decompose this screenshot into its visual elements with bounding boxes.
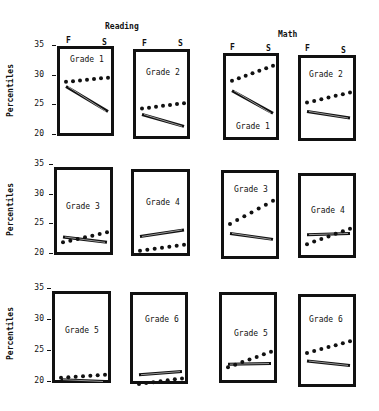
y-tick-mark xyxy=(52,75,56,76)
y-tick-label-30: 30 xyxy=(26,70,44,79)
dotted-series-point xyxy=(341,341,345,345)
dotted-series-point xyxy=(251,71,255,75)
dotted-series-point xyxy=(64,80,68,84)
y-tick-label-25: 25 xyxy=(26,345,44,354)
dotted-series-point xyxy=(312,99,316,103)
dotted-series-point xyxy=(98,232,102,236)
dotted-series-point xyxy=(103,373,107,377)
panel-reading-grade-4: Grade 4 xyxy=(131,169,190,256)
dotted-series-point xyxy=(161,104,165,108)
y-tick-label-35: 35 xyxy=(26,283,44,292)
grade-label: Grade 1 xyxy=(236,122,270,131)
dotted-series-point xyxy=(242,214,246,218)
dotted-series-point xyxy=(319,347,323,351)
panel-reading-grade-3: Grade 3 xyxy=(54,167,113,255)
y-tick-mark xyxy=(47,288,51,289)
grade-label: Grade 5 xyxy=(65,326,99,335)
panel-plot xyxy=(301,176,359,261)
reading-g2-s-label: S xyxy=(178,39,183,48)
dotted-series-point xyxy=(264,66,268,70)
dotted-series-point xyxy=(271,199,275,203)
dotted-series-point xyxy=(144,381,148,385)
dotted-series-point xyxy=(305,351,309,355)
dotted-series-point xyxy=(59,376,63,380)
dotted-series-point xyxy=(90,234,94,238)
dotted-series-point xyxy=(327,234,331,238)
dotted-series-point xyxy=(71,79,75,83)
dotted-series-point xyxy=(166,378,170,382)
panel-plot xyxy=(301,297,359,390)
math-g1-s-label: S xyxy=(266,44,271,53)
dotted-series-point xyxy=(228,222,232,226)
y-tick-mark xyxy=(52,45,56,46)
dotted-series-point xyxy=(348,227,352,231)
panel-reading-grade-1: Grade 1 xyxy=(57,46,114,136)
dotted-series-point xyxy=(180,376,184,380)
dotted-series-point xyxy=(160,246,164,250)
panel-plot xyxy=(55,294,114,386)
dotted-series-point xyxy=(341,229,345,233)
dotted-series-point xyxy=(168,103,172,107)
dotted-series-point xyxy=(137,382,141,386)
y-tick-label-35: 35 xyxy=(26,159,44,168)
y-tick-label-25: 25 xyxy=(26,99,44,108)
dotted-series-point xyxy=(85,78,89,82)
y-tick-label-35: 35 xyxy=(26,40,44,49)
panel-math-grade-5: Grade 5 xyxy=(219,292,277,383)
dotted-series-point xyxy=(348,91,352,95)
dotted-series-point xyxy=(182,243,186,247)
y-tick-label-25: 25 xyxy=(26,218,44,227)
dotted-series-point xyxy=(348,339,352,343)
panel-math-grade-3: Grade 3 xyxy=(221,170,279,259)
dotted-series-point xyxy=(66,375,70,379)
math-g1-f-label: F xyxy=(230,43,235,52)
panel-plot xyxy=(136,52,193,142)
dotted-series-point xyxy=(167,245,171,249)
panel-reading-grade-6: Grade 6 xyxy=(130,292,188,384)
dotted-series-point xyxy=(175,244,179,248)
math-g2-f-label: F xyxy=(305,44,310,53)
panel-plot xyxy=(222,295,280,386)
dotted-series-point xyxy=(250,210,254,214)
dotted-series-point xyxy=(153,247,157,251)
y-tick-label-20: 20 xyxy=(26,248,44,257)
math-section-title: Math xyxy=(278,30,297,39)
panel-plot xyxy=(57,170,116,258)
grade-label: Grade 5 xyxy=(234,329,268,338)
y-tick-label-20: 20 xyxy=(26,376,44,385)
y-tick-mark xyxy=(47,319,51,320)
dotted-series-point xyxy=(83,235,87,239)
dotted-series-point xyxy=(61,240,65,244)
dotted-series-point xyxy=(334,232,338,236)
dotted-series-point xyxy=(105,230,109,234)
dotted-series-point xyxy=(159,379,163,383)
panel-math-grade-1: Grade 1 xyxy=(223,53,279,140)
grade-label: Grade 1 xyxy=(70,55,104,64)
dotted-series-point xyxy=(96,373,100,377)
grade-label: Grade 6 xyxy=(309,315,343,324)
dotted-series-point xyxy=(341,92,345,96)
dotted-series-point xyxy=(312,240,316,244)
dotted-series-point xyxy=(305,242,309,246)
dotted-series-point xyxy=(151,380,155,384)
panel-math-grade-4: Grade 4 xyxy=(298,173,356,258)
dotted-series-point xyxy=(68,239,72,243)
grade-label: Grade 3 xyxy=(66,202,100,211)
dotted-series-point xyxy=(76,237,80,241)
y-axis-label: Percentiles xyxy=(6,64,15,117)
dotted-series-point xyxy=(230,79,234,83)
grade-label: Grade 3 xyxy=(234,185,268,194)
dotted-series-point xyxy=(99,76,103,80)
dotted-series-point xyxy=(334,343,338,347)
dotted-series-point xyxy=(248,358,252,362)
reading-section-title: Reading xyxy=(105,22,139,31)
dotted-series-point xyxy=(271,64,275,68)
grade-label: Grade 4 xyxy=(146,198,180,207)
math-g2-s-label: S xyxy=(341,46,346,55)
dotted-series-point xyxy=(269,350,273,354)
y-tick-mark xyxy=(52,104,56,105)
dotted-series-point xyxy=(264,203,268,207)
dotted-series-point xyxy=(327,96,331,100)
y-tick-mark xyxy=(49,194,53,195)
y-tick-label-30: 30 xyxy=(26,189,44,198)
